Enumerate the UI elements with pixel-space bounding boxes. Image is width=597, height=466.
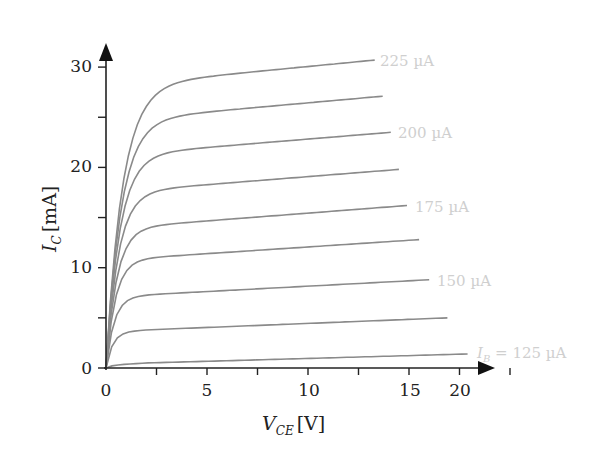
transistor-output-characteristics-chart: 0 5 10 15 20 0 10 20 30 VCE[V] IC[mA] 22… — [0, 0, 597, 466]
x-axis-title: VCE[V] — [262, 412, 325, 438]
x-ticks — [157, 368, 511, 375]
y-tick-label: 30 — [70, 56, 92, 76]
characteristic-curve — [106, 169, 399, 368]
characteristic-curve — [106, 318, 447, 368]
curve-label-225: 225 µA — [380, 52, 434, 70]
y-axis-title: IC[mA] — [38, 186, 64, 253]
y-tick-labels: 0 10 20 30 — [70, 56, 92, 378]
characteristic-curve — [106, 354, 468, 368]
characteristic-curve — [106, 280, 429, 368]
curve-label-200: 200 µA — [398, 124, 452, 142]
x-tick-label: 0 — [101, 380, 112, 400]
x-tick-label: 10 — [298, 380, 320, 400]
curve-label-175: 175 µA — [415, 198, 469, 216]
x-tick-labels: 0 5 10 15 20 — [101, 380, 471, 400]
y-tick-label: 0 — [81, 358, 92, 378]
y-tick-label: 20 — [70, 156, 92, 176]
x-tick-label: 5 — [202, 380, 213, 400]
y-ticks — [98, 67, 106, 368]
characteristic-curve — [106, 206, 407, 369]
y-axis-arrow-icon — [99, 43, 113, 61]
characteristic-curve — [106, 240, 419, 368]
x-tick-label: 20 — [449, 380, 471, 400]
curve-label-150: 150 µA — [437, 272, 491, 290]
y-tick-label: 10 — [70, 257, 92, 277]
x-tick-label: 15 — [399, 380, 421, 400]
curve-label-ib-125: IB = 125 µA — [476, 344, 567, 364]
curves-group — [106, 60, 468, 368]
